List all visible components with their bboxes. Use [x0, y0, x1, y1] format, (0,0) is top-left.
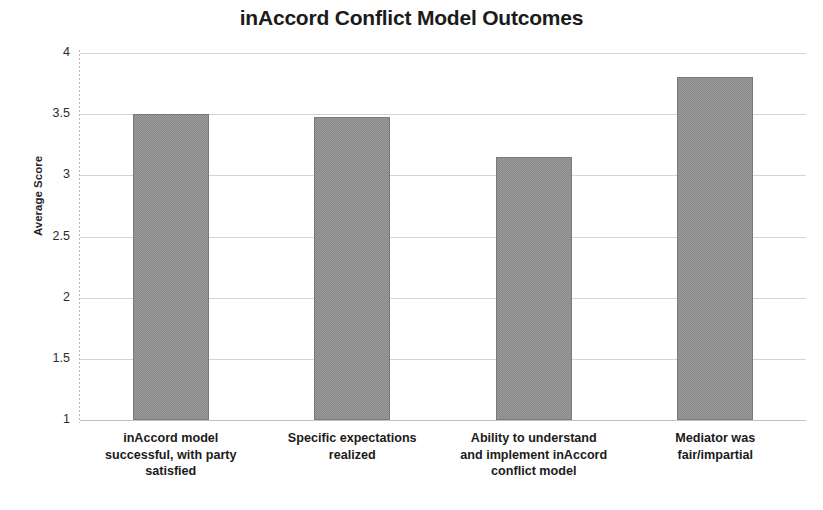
bar [133, 114, 209, 420]
category-label-line: and implement inAccord [447, 447, 621, 464]
y-tick: 1 [8, 412, 70, 426]
category-label: inAccord modelsuccessful, with partysati… [84, 430, 258, 480]
category-label-line: Mediator was [629, 430, 803, 447]
y-tick: 2.5 [8, 229, 70, 243]
category-label-line: fair/impartial [629, 447, 803, 464]
category-label-line: Ability to understand [447, 430, 621, 447]
y-tick: 3.5 [8, 106, 70, 120]
plot-area [80, 53, 806, 420]
chart-container: inAccord Conflict Model Outcomes Average… [0, 0, 823, 510]
category-label: Ability to understandand implement inAcc… [447, 430, 621, 480]
category-label-line: conflict model [447, 463, 621, 480]
y-tick: 1.5 [8, 351, 70, 365]
y-tick-label: 1.5 [10, 351, 70, 365]
y-tick-label: 2 [10, 290, 70, 304]
gridline [80, 53, 806, 54]
bar [677, 77, 753, 420]
y-tick-label: 3 [10, 167, 70, 181]
bar [314, 117, 390, 420]
y-tick: 2 [8, 290, 70, 304]
category-label-line: realized [266, 447, 440, 464]
y-tick-label: 2.5 [10, 229, 70, 243]
y-tick: 4 [8, 45, 70, 59]
y-tick-label: 3.5 [10, 106, 70, 120]
category-label: Specific expectationsrealized [266, 430, 440, 463]
chart-title: inAccord Conflict Model Outcomes [0, 6, 823, 30]
category-label-line: successful, with party [84, 447, 258, 464]
gridline [80, 420, 806, 421]
category-label: Mediator wasfair/impartial [629, 430, 803, 463]
category-label-line: inAccord model [84, 430, 258, 447]
bar [496, 157, 572, 420]
category-label-line: satisfied [84, 463, 258, 480]
y-tick-label: 1 [10, 412, 70, 426]
category-label-line: Specific expectations [266, 430, 440, 447]
y-tick-label: 4 [10, 45, 70, 59]
y-tick: 3 [8, 167, 70, 181]
